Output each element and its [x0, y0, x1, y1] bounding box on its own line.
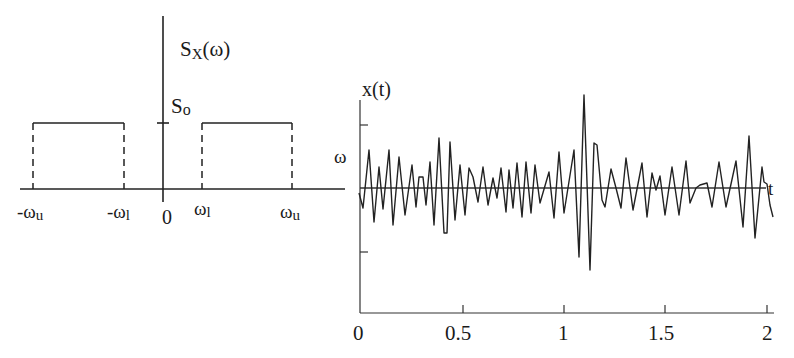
- psd-tick-omega-u: ωu: [280, 201, 301, 223]
- psd-tick-neg-omega-l: -ωl: [107, 201, 130, 223]
- time-x-tick-label-0: 0: [353, 321, 364, 345]
- time-x-tick-label-2: 2: [762, 321, 773, 345]
- psd-origin-label: 0: [162, 206, 172, 228]
- time-x-tick-label-1.5: 1.5: [648, 321, 674, 345]
- psd-level-label: So: [171, 94, 191, 118]
- psd-tick-omega-l: ωl: [194, 198, 211, 220]
- psd-y-label: SX(ω): [180, 37, 230, 62]
- figure-canvas: SX(ω) So ω 0 -ωu -ωl ωl ωu x(t) t 0 0.5 …: [0, 0, 794, 358]
- time-y-label: x(t): [362, 78, 391, 101]
- time-x-tick-label-1: 1: [558, 321, 569, 345]
- psd-tick-neg-omega-u: -ωu: [17, 201, 44, 223]
- time-x-label: t: [768, 178, 774, 199]
- psd-axis-var-label: ω: [334, 146, 347, 167]
- time-history-plot: [359, 95, 774, 313]
- waveform-trace: [359, 95, 773, 270]
- time-x-tick-label-0.5: 0.5: [445, 321, 471, 345]
